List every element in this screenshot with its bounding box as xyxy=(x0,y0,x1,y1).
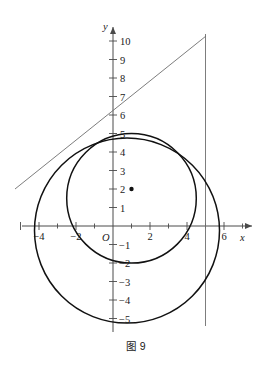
y-tick-labels: 10 9 8 7 6 5 4 3 2 1 −1 −2 −3 −4 −5 xyxy=(119,36,131,325)
y-label-8: 8 xyxy=(120,73,125,84)
origin-label: O xyxy=(102,232,110,243)
tangent-line xyxy=(15,36,206,189)
y-label-1: 1 xyxy=(120,203,125,214)
y-label-10: 10 xyxy=(120,36,131,47)
y-label-2: 2 xyxy=(120,184,125,195)
figure-caption: 图 9 xyxy=(0,338,272,353)
x-label-2: 2 xyxy=(147,231,152,242)
x-axis-label: x xyxy=(239,232,245,243)
y-label-3: 3 xyxy=(120,166,125,177)
axes-group xyxy=(22,27,252,332)
y-label-5: 5 xyxy=(120,129,125,140)
x-axis-arrow xyxy=(245,223,252,229)
y-label-6: 6 xyxy=(120,110,125,121)
y-label-minus1: −1 xyxy=(119,240,130,251)
y-label-9: 9 xyxy=(120,55,125,66)
x-label-6: 6 xyxy=(221,231,226,242)
y-label-7: 7 xyxy=(120,92,125,103)
y-label-minus2: −2 xyxy=(119,258,130,269)
x-label-minus2: −2 xyxy=(70,231,81,242)
y-axis-label: y xyxy=(102,21,108,32)
figure-container: −4 −2 2 4 6 10 9 8 7 6 5 4 3 2 1 −1 −2 −… xyxy=(0,0,272,376)
marked-point xyxy=(129,187,133,191)
curves-group xyxy=(15,34,220,326)
y-label-minus4: −4 xyxy=(119,295,131,306)
small-circle xyxy=(67,134,197,264)
y-label-minus5: −5 xyxy=(119,314,130,325)
x-label-4: 4 xyxy=(184,231,190,242)
y-label-4: 4 xyxy=(120,147,126,158)
x-label-minus4: −4 xyxy=(33,231,45,242)
coordinate-plot: −4 −2 2 4 6 10 9 8 7 6 5 4 3 2 1 −1 −2 −… xyxy=(0,0,272,376)
y-label-minus3: −3 xyxy=(119,277,130,288)
y-axis-arrow xyxy=(110,27,116,34)
